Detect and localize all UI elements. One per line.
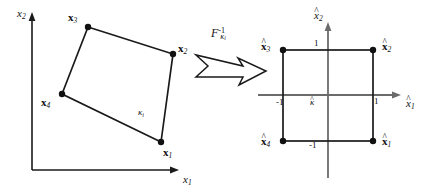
ref-vertex-label-x4: ^x4 (261, 136, 270, 148)
vertex-dot-x4 (59, 91, 65, 97)
ref-vertex-dot-x4 (280, 138, 286, 144)
physical-element-label: κi (138, 108, 144, 118)
inverse-map-arrow-shape (196, 55, 266, 85)
right-y-axis-arrowhead (325, 22, 332, 31)
ref-vertex-label-x2: ^x2 (382, 41, 391, 53)
hat-accent-icon: ^ (314, 7, 318, 16)
ref-vertex-label-x1: ^x1 (382, 136, 391, 148)
vertex-label-x1: x1 (163, 147, 172, 159)
ref-vertex-dot-x2 (370, 47, 376, 53)
hat-accent-icon: ^ (383, 133, 387, 142)
reference-element-label: ^κ (310, 98, 314, 107)
figure-container: x2 x1 x1 x2 x3 x4 κi F-1κi ^x2 ^x1 1 -1 … (0, 0, 428, 194)
ref-vertex-dot-x1 (370, 138, 376, 144)
right-y-axis-label: ^x2 (314, 10, 323, 22)
right-x-axis-arrowhead (392, 92, 401, 99)
hat-accent-icon: ^ (262, 38, 266, 47)
vertex-label-x3: x3 (68, 12, 77, 24)
left-axes (29, 12, 179, 173)
tick-label-y-plus-one: 1 (314, 39, 319, 48)
vertex-label-x2: x2 (178, 43, 187, 55)
ref-vertex-label-x3: ^x3 (261, 41, 270, 53)
left-x-axis-arrowhead (170, 167, 179, 174)
hat-accent-icon: ^ (310, 96, 314, 104)
right-x-axis-label: ^x1 (406, 98, 415, 110)
tick-label-x-minus-one: -1 (276, 98, 284, 107)
left-y-axis-label: x2 (17, 8, 26, 20)
ref-vertex-dot-x3 (280, 47, 286, 53)
hat-accent-icon: ^ (262, 133, 266, 142)
physical-quadrilateral (59, 24, 176, 145)
left-x-axis-label: x1 (183, 174, 192, 186)
hat-accent-icon: ^ (383, 38, 387, 47)
vertex-dot-x1 (158, 139, 164, 145)
left-y-axis-arrowhead (29, 12, 36, 21)
vertex-dot-x3 (85, 24, 91, 30)
quadrilateral-outline (62, 27, 173, 142)
vertex-dot-x2 (170, 51, 176, 57)
block-arrow-path (196, 55, 266, 85)
vertex-label-x4: x4 (41, 97, 50, 109)
tick-label-y-minus-one: -1 (309, 141, 317, 150)
inverse-map-label: F-1κi (211, 27, 226, 42)
hat-accent-icon: ^ (406, 95, 410, 104)
tick-label-x-plus-one: 1 (374, 97, 379, 106)
